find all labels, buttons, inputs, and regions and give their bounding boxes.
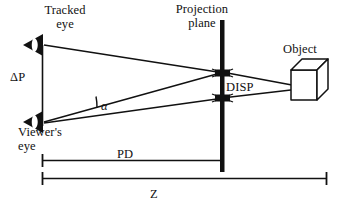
- label-viewers-eye: Viewer's eye: [18, 126, 90, 153]
- angle-arc-icon: [96, 97, 97, 108]
- label-delta-p: ΔP: [10, 71, 25, 85]
- ray-group: [44, 45, 308, 123]
- label-object: Object: [283, 43, 317, 57]
- ray-viewer-eye-to-lower-intersection: [44, 98, 224, 123]
- tracked-eye-icon: [23, 34, 43, 56]
- label-pd: PD: [117, 148, 133, 162]
- ray-viewer-eye-to-upper-intersection: [44, 72, 224, 122]
- label-disp: DISP: [226, 81, 254, 95]
- label-z: Z: [150, 188, 158, 202]
- lower-intersection-marker-icon: [212, 94, 233, 102]
- ray-tracked-eye-to-plane: [44, 45, 224, 73]
- cube-icon: [291, 59, 328, 100]
- label-alpha: α: [101, 100, 108, 114]
- upper-intersection-marker-icon: [212, 69, 233, 77]
- projection-geometry-diagram: Tracked eye Viewer's eye ΔP Projection p…: [0, 0, 337, 212]
- z-dimension-line: [42, 172, 327, 185]
- label-projection-plane: Projection plane: [168, 3, 236, 30]
- label-tracked-eye: Tracked eye: [26, 4, 104, 31]
- diagram-canvas: [0, 0, 337, 212]
